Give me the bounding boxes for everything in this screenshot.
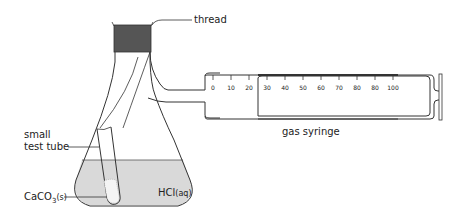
hcl-label: HCl(aq): [158, 187, 192, 198]
scale-label: 50: [299, 84, 307, 91]
gas-syringe-label: gas syringe: [282, 126, 340, 137]
scale-label: 30: [263, 84, 271, 91]
test-tube-label: test tube: [24, 141, 69, 152]
scale-label: 10: [227, 84, 235, 91]
syringe-barrel: [205, 75, 440, 119]
scale-label: 100: [387, 84, 399, 91]
thread-label: thread: [194, 14, 227, 25]
scale-label: 70: [335, 84, 343, 91]
scale-label: 80: [353, 84, 361, 91]
delivery-tube: [150, 52, 220, 90]
scale-label: 20: [245, 84, 253, 91]
syringe-plunger-handle: [439, 74, 442, 120]
caco3-label: CaCO3(s): [24, 191, 67, 205]
small-label: small: [24, 129, 51, 140]
rubber-stopper: [114, 25, 151, 52]
scale-label: 80: [371, 84, 379, 91]
scale-label: 0: [211, 84, 215, 91]
hcl-liquid: [75, 160, 191, 205]
scale-label: 40: [281, 84, 289, 91]
syringe-plunger: [258, 76, 430, 116]
thread-pointer: [152, 20, 192, 25]
scale-label: 60: [317, 84, 325, 91]
apparatus-diagram: thread small test tube CaCO3(s) HCl(aq) …: [0, 0, 457, 221]
